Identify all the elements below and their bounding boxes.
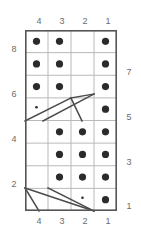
right-label-row-4: 5 bbox=[122, 113, 136, 122]
left-label-row-5: 4 bbox=[7, 135, 21, 144]
cell-dot bbox=[56, 151, 63, 158]
cell-dot bbox=[102, 173, 109, 180]
right-label-row-2: 7 bbox=[122, 68, 136, 77]
cell-dot bbox=[79, 151, 86, 158]
left-label-row-7: 2 bbox=[7, 180, 21, 189]
cell-dot bbox=[102, 196, 109, 203]
diagonal-mark-lower-long-a bbox=[25, 188, 94, 211]
cell-dot bbox=[33, 60, 40, 67]
grid-container bbox=[25, 30, 117, 211]
cell-dot bbox=[79, 128, 86, 135]
cell-dot bbox=[102, 151, 109, 158]
cell-small-dot bbox=[35, 106, 38, 109]
top-label-col-2: 3 bbox=[55, 17, 69, 26]
grid-lines bbox=[25, 30, 117, 211]
cell-small-dot bbox=[81, 196, 84, 199]
cell-dot bbox=[56, 173, 63, 180]
cell-dot bbox=[33, 38, 40, 45]
top-label-col-4: 1 bbox=[101, 17, 115, 26]
cell-dot bbox=[102, 106, 109, 113]
bottom-label-col-4: 1 bbox=[101, 217, 115, 226]
cell-dot bbox=[56, 60, 63, 67]
left-label-row-1: 8 bbox=[7, 45, 21, 54]
right-label-row-8: 1 bbox=[122, 202, 136, 211]
cell-dot bbox=[79, 173, 86, 180]
left-label-row-3: 6 bbox=[7, 90, 21, 99]
bottom-label-col-3: 2 bbox=[78, 217, 92, 226]
dot-grid-diagram: 4 3 2 1 4 3 2 1 8 6 4 2 7 5 3 1 bbox=[0, 0, 141, 232]
cell-dot bbox=[56, 38, 63, 45]
cell-dot bbox=[56, 83, 63, 90]
cell-dot bbox=[102, 128, 109, 135]
cell-dot bbox=[102, 60, 109, 67]
cell-dot bbox=[56, 128, 63, 135]
grid-svg bbox=[25, 30, 117, 211]
bottom-label-col-2: 3 bbox=[55, 217, 69, 226]
cell-dot bbox=[102, 83, 109, 90]
bottom-label-col-1: 4 bbox=[32, 217, 46, 226]
top-label-col-1: 4 bbox=[32, 17, 46, 26]
right-label-row-6: 3 bbox=[122, 158, 136, 167]
cell-dot bbox=[102, 38, 109, 45]
cell-dot bbox=[33, 83, 40, 90]
top-label-col-3: 2 bbox=[78, 17, 92, 26]
